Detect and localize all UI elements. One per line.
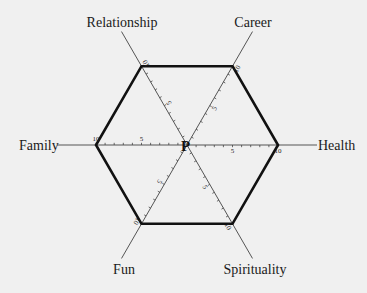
tick-label: 5 bbox=[210, 104, 219, 111]
tick-label: 10 bbox=[93, 135, 101, 143]
tick-label: 5 bbox=[201, 184, 210, 191]
tick-label: 5 bbox=[165, 99, 174, 106]
axis-label-relationship: Relationship bbox=[87, 15, 158, 30]
tick-label: 10 bbox=[275, 147, 283, 155]
axis-label-family: Family bbox=[19, 138, 59, 153]
axis-line-fun bbox=[122, 145, 188, 258]
axis-line-spirituality bbox=[187, 145, 253, 258]
tick-label: 5 bbox=[155, 178, 164, 185]
axis-label-fun: Fun bbox=[113, 262, 135, 277]
tick-label: 5 bbox=[231, 147, 235, 155]
axis-line-career bbox=[187, 32, 253, 145]
tick-label: 10 bbox=[232, 64, 243, 74]
axis-label-health: Health bbox=[318, 138, 355, 153]
life-wheel-diagram: 510510510510510510 P Relationship Career… bbox=[0, 0, 367, 293]
axis-label-spirituality: Spirituality bbox=[224, 262, 287, 277]
axis-line-relationship bbox=[122, 32, 188, 145]
axis-label-career: Career bbox=[234, 15, 272, 30]
tick-label: 10 bbox=[131, 216, 142, 226]
center-label: P bbox=[181, 138, 190, 154]
tick-label: 5 bbox=[140, 135, 144, 143]
